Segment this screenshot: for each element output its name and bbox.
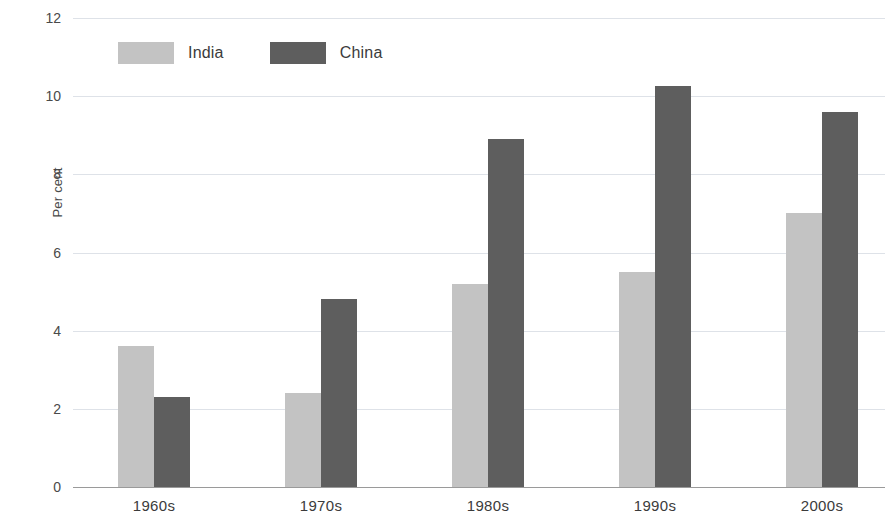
bar-india-1980s[interactable] xyxy=(452,284,488,487)
bars-layer xyxy=(73,18,885,487)
y-axis-tick-label: 12 xyxy=(5,10,61,26)
legend-label-china: China xyxy=(340,44,383,62)
bar-china-1960s[interactable] xyxy=(154,397,190,487)
bar-india-1970s[interactable] xyxy=(285,393,321,487)
bar-china-2000s[interactable] xyxy=(822,112,858,487)
bar-india-1990s[interactable] xyxy=(619,272,655,487)
y-axis-tick-label: 6 xyxy=(5,245,61,261)
bar-chart: Per cent 121086420 India China 1960s1970… xyxy=(0,0,892,523)
chart-legend: India China xyxy=(118,42,383,64)
bar-india-1960s[interactable] xyxy=(118,346,154,487)
y-axis-tick-label: 8 xyxy=(5,166,61,182)
y-axis-tick-label: 4 xyxy=(5,323,61,339)
legend-swatch-china-icon xyxy=(270,42,326,64)
legend-label-india: India xyxy=(188,44,224,62)
x-axis-tick-label: 1960s xyxy=(74,497,234,514)
bar-china-1980s[interactable] xyxy=(488,139,524,487)
x-axis-tick-label: 1980s xyxy=(408,497,568,514)
y-axis-tick-label: 2 xyxy=(5,401,61,417)
x-axis-tick-label: 2000s xyxy=(742,497,892,514)
y-axis-tick-label: 10 xyxy=(5,88,61,104)
legend-item-china[interactable]: China xyxy=(270,42,383,64)
axis-baseline xyxy=(73,487,885,488)
bar-india-2000s[interactable] xyxy=(786,213,822,487)
y-axis-tick-label: 0 xyxy=(5,479,61,495)
x-axis-tick-label: 1990s xyxy=(575,497,735,514)
bar-china-1970s[interactable] xyxy=(321,299,357,487)
y-axis-title: Per cent xyxy=(50,138,65,248)
bar-china-1990s[interactable] xyxy=(655,86,691,487)
legend-item-india[interactable]: India xyxy=(118,42,224,64)
x-axis-tick-label: 1970s xyxy=(241,497,401,514)
legend-swatch-india-icon xyxy=(118,42,174,64)
